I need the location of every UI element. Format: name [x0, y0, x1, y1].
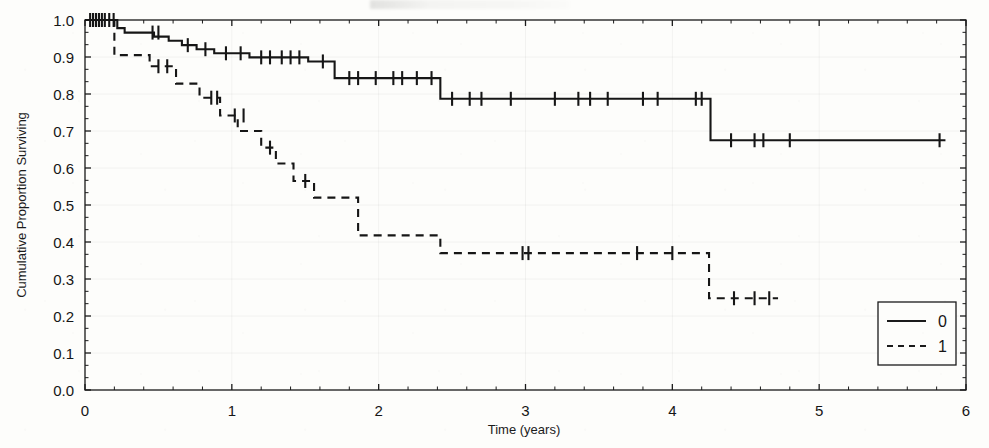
axis-tick-labels: 0.00.10.20.30.40.50.60.70.80.91.00123456 [53, 12, 970, 419]
y-tick-label: 0.0 [53, 382, 74, 399]
series-line-0 [85, 20, 945, 140]
legend[interactable]: 01 [878, 302, 956, 365]
x-tick-label: 4 [668, 402, 676, 419]
y-axis-title: Cumulative Proportion Surviving [14, 112, 29, 298]
survival-chart: 0.00.10.20.30.40.50.60.70.80.91.00123456… [0, 0, 989, 448]
legend-box [878, 302, 956, 365]
x-axis-title: Time (years) [488, 422, 560, 437]
y-tick-label: 0.4 [53, 234, 74, 251]
x-tick-label: 3 [521, 402, 529, 419]
legend-label-0: 0 [938, 313, 947, 330]
y-tick-label: 0.3 [53, 271, 74, 288]
series-1 [85, 20, 778, 305]
y-tick-label: 0.1 [53, 345, 74, 362]
series-0 [85, 13, 945, 147]
x-tick-label: 0 [81, 402, 89, 419]
x-tick-label: 2 [374, 402, 382, 419]
x-tick-label: 6 [962, 402, 970, 419]
grid-layer [85, 20, 966, 390]
y-tick-label: 0.2 [53, 308, 74, 325]
y-tick-label: 0.9 [53, 49, 74, 66]
figure-canvas: 0.00.10.20.30.40.50.60.70.80.91.00123456… [0, 0, 989, 448]
y-tick-label: 0.7 [53, 123, 74, 140]
series-line-1 [85, 20, 778, 298]
y-tick-label: 1.0 [53, 12, 74, 29]
y-tick-label: 0.8 [53, 86, 74, 103]
y-tick-label: 0.6 [53, 160, 74, 177]
legend-label-1: 1 [938, 338, 947, 355]
y-tick-label: 0.5 [53, 197, 74, 214]
x-tick-label: 1 [228, 402, 236, 419]
x-tick-label: 5 [815, 402, 823, 419]
